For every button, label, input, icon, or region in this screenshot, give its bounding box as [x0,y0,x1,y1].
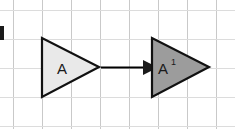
triangle-a-prime-superscript: 1 [171,57,176,67]
geometry-figure-canvas: A A 1 [0,0,235,129]
triangle-a-prime-label: A [158,60,168,77]
figure-svg: A A 1 [0,0,235,129]
figure-edge-marker-icon [0,26,4,40]
triangle-a-shape[interactable] [42,38,99,97]
triangle-a-label: A [57,60,67,77]
